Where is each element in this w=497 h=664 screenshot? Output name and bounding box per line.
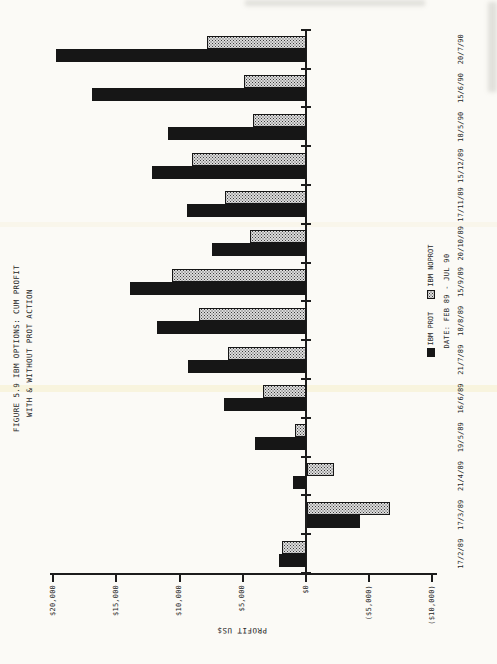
date-tick-label: 20/7/90 <box>457 26 465 72</box>
date-axis-tick <box>301 223 311 225</box>
hatched-swatch-icon <box>427 290 435 299</box>
value-tick-label: $10,000 <box>175 585 183 631</box>
legend-item-noprot: IBM NOPROT <box>427 245 435 299</box>
value-axis-tick <box>115 574 117 582</box>
bar-ibm-prot-15/9/89 <box>130 282 306 295</box>
date-axis-tick <box>301 533 311 535</box>
date-axis-tick <box>301 417 311 419</box>
legend: IBM PROT IBM NOPROT <box>427 29 435 573</box>
bar-ibm-noprot-15/9/89 <box>172 269 306 282</box>
value-tick-label: $20,000 <box>49 585 57 631</box>
bar-ibm-prot-17/11/89 <box>187 204 306 217</box>
x-axis-title: DATE: FEB 89 - JUL 90 <box>443 29 451 573</box>
value-axis-tick <box>431 574 433 582</box>
value-tick-label: $5,000 <box>238 585 246 631</box>
bar-ibm-prot-21/4/89 <box>293 476 306 489</box>
value-tick-label: ($5,000) <box>365 585 373 631</box>
bar-ibm-prot-20/7/90 <box>56 49 306 62</box>
date-axis-tick <box>301 300 311 302</box>
date-axis-tick <box>301 68 311 70</box>
bar-ibm-noprot-17/11/89 <box>225 191 306 204</box>
value-axis-tick <box>305 574 307 582</box>
date-axis-tick <box>301 494 311 496</box>
figure-5-9-chart: FIGURE 5.9 IBM OPTIONS: CUM PROFIT WITH … <box>0 0 497 664</box>
bar-ibm-noprot-21/4/89 <box>307 463 334 476</box>
bar-ibm-prot-19/5/89 <box>255 437 306 450</box>
value-axis-tick <box>179 574 181 582</box>
bar-ibm-prot-20/10/89 <box>212 243 306 256</box>
scanned-chart-page: FIGURE 5.9 IBM OPTIONS: CUM PROFIT WITH … <box>0 0 497 664</box>
bar-ibm-noprot-16/6/89 <box>263 385 306 398</box>
date-axis-tick <box>301 106 311 108</box>
bar-ibm-prot-18/5/90 <box>168 127 306 140</box>
date-axis-tick <box>301 378 311 380</box>
value-axis-tick <box>368 574 370 582</box>
value-tick-label: $15,000 <box>112 585 120 631</box>
date-axis-tick <box>301 339 311 341</box>
bar-ibm-noprot-20/10/89 <box>250 230 306 243</box>
bar-ibm-noprot-18/5/90 <box>253 114 306 127</box>
bar-ibm-prot-16/6/89 <box>224 398 306 411</box>
bar-ibm-noprot-20/7/90 <box>207 36 306 49</box>
bar-ibm-noprot-19/5/89 <box>295 424 306 437</box>
value-tick-label: ($10,000) <box>428 585 436 631</box>
date-axis-tick <box>301 29 311 31</box>
bar-ibm-noprot-21/7/89 <box>228 347 306 360</box>
bar-ibm-prot-21/7/89 <box>188 360 306 373</box>
solid-swatch-icon <box>427 348 435 357</box>
plot-area: $20,000$15,000$10,000$5,000$0($5,000)($1… <box>0 0 497 664</box>
bar-ibm-prot-17/2/89 <box>279 554 306 567</box>
bar-ibm-noprot-15/12/89 <box>192 153 306 166</box>
value-axis-tick <box>52 574 54 582</box>
bar-ibm-prot-15/12/89 <box>152 166 306 179</box>
legend-item-prot: IBM PROT <box>427 312 435 358</box>
bar-ibm-prot-15/6/90 <box>92 88 306 101</box>
bar-ibm-noprot-17/3/89 <box>307 502 390 515</box>
bar-ibm-noprot-18/8/89 <box>199 308 306 321</box>
legend-label-noprot: IBM NOPROT <box>427 245 435 287</box>
value-tick-label: $0 <box>302 585 310 631</box>
date-axis-tick <box>301 184 311 186</box>
date-axis-tick <box>301 572 311 574</box>
legend-label-prot: IBM PROT <box>427 312 435 346</box>
bar-ibm-prot-18/8/89 <box>157 321 306 334</box>
bar-ibm-noprot-17/2/89 <box>282 541 306 554</box>
date-axis-tick <box>301 456 311 458</box>
date-axis-tick <box>301 262 311 264</box>
bar-ibm-noprot-15/6/90 <box>244 75 306 88</box>
bar-ibm-prot-17/3/89 <box>307 515 360 528</box>
value-axis-tick <box>242 574 244 582</box>
date-axis-tick <box>301 145 311 147</box>
